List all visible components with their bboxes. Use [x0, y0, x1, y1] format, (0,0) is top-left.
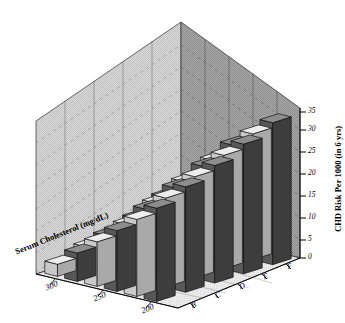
z-tick-0: 0: [308, 253, 312, 261]
z-tick-5: 5: [308, 235, 312, 243]
bars-layer: [0, 0, 345, 323]
chart-canvas: 0 5 10 15 20 25 30 35 CHD Risk Per 1000 …: [0, 0, 345, 323]
z-tick-10: 10: [308, 213, 316, 221]
z-tick-30: 30: [308, 125, 316, 133]
z-axis-title: CHD Risk Per 1000 (in 6 yrs): [334, 126, 343, 232]
z-tick-25: 25: [308, 147, 316, 155]
z-tick-20: 20: [308, 169, 316, 177]
z-tick-35: 35: [308, 107, 316, 115]
z-tick-15: 15: [308, 191, 316, 199]
